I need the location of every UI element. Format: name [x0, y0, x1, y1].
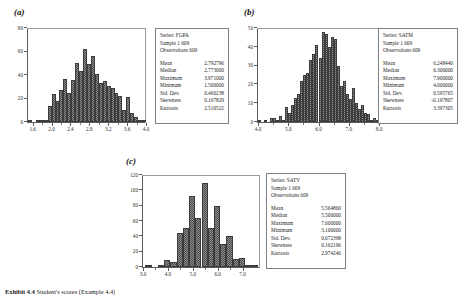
histogram-bar	[251, 265, 257, 267]
panel-c-y-tick	[139, 220, 142, 221]
stat-key: Skewness	[271, 242, 296, 250]
panel-b-y-tick	[254, 46, 257, 47]
panel-c-series-label: Series:	[271, 177, 285, 183]
stat-value: 3.397305	[433, 105, 453, 113]
stat-row: Std. Dev.0.672398	[271, 235, 341, 243]
stat-value: 1.500000	[204, 82, 224, 90]
panel-b-sample-line: Sample 1 609	[383, 40, 453, 48]
panel-c-bars	[143, 176, 259, 267]
panel-c-y-tick-label: 100	[130, 188, 138, 193]
panel-c-x-tick-label: 6.0	[214, 272, 220, 277]
panel-c-series-value: SATV	[287, 177, 300, 183]
panel-c-y-tick-label: 0	[135, 264, 138, 269]
panel-b-bars	[258, 29, 378, 122]
panel-c-y-tick	[139, 205, 142, 206]
panel-a-x-tick-minor	[80, 123, 81, 125]
panel-a-y-tick-label: 0	[20, 119, 23, 124]
panel-c-x-tick-minor	[155, 268, 156, 270]
stat-row: Median5.500000	[271, 212, 341, 220]
panel-c-sample-line: Sample 1 609	[271, 185, 341, 193]
panel-a-sample-value: 1 609	[177, 40, 189, 46]
stat-key: Mean	[383, 60, 399, 68]
histogram-bar	[145, 265, 151, 267]
stat-value: 3.971000	[204, 75, 224, 83]
panel-a-stats-box: Series: FGPA Sample 1 609 Observations 6…	[155, 28, 229, 124]
stat-key: Maximum	[160, 75, 186, 83]
stat-key: Median	[160, 67, 180, 75]
stat-value: 7.900000	[433, 75, 453, 83]
panel-b-y-tick-label: 30	[248, 63, 253, 68]
stat-row: Minimum1.500000	[160, 82, 224, 90]
panel-b-x-tick-label: 6.0	[315, 127, 321, 132]
panel-b-y-tick	[254, 27, 257, 28]
stat-key: Std. Dev.	[160, 90, 184, 98]
panel-b-y-tick	[254, 83, 257, 84]
histogram-bar	[142, 120, 146, 122]
stat-row: Mean5.564860	[271, 205, 341, 213]
stat-key: Skewness	[160, 97, 185, 105]
stat-key: Median	[271, 212, 291, 220]
stat-row: Skewness0.167829	[160, 97, 224, 105]
panel-c-sample-label: Sample	[271, 185, 287, 191]
panel-a-series-label: Series:	[160, 32, 174, 38]
panel-b-series-label: Series:	[383, 32, 397, 38]
stat-key: Kurtosis	[383, 105, 405, 113]
panel-a: (a) 0204060801.62.02.42.83.23.64.0 Serie…	[0, 0, 232, 150]
panel-b-y-tick	[254, 121, 257, 122]
panel-b-y-tick-label: 0	[250, 119, 253, 124]
stat-value: 5.500000	[321, 212, 341, 220]
stat-row: Mean6.248440	[383, 60, 453, 68]
panel-c-observations-label: Observations	[271, 192, 299, 198]
panel-a-y-tick	[24, 98, 27, 99]
panel-c-sample-value: 1 609	[288, 185, 300, 191]
panel-b-x-tick-minor	[303, 123, 304, 125]
panel-b-y-tick-label: 20	[248, 82, 253, 87]
panel-b-label: (b)	[244, 7, 255, 17]
panel-c-x-tick-minor	[180, 268, 181, 270]
stat-row: Kurtosis2.510522	[160, 105, 224, 113]
panel-a-label: (a)	[14, 7, 25, 17]
panel-b-y-tick	[254, 65, 257, 66]
panel-a-x-tick-label: 2.0	[48, 127, 54, 132]
panel-b-sample-value: 1 609	[400, 40, 412, 46]
panel-c-label: (c)	[126, 156, 136, 166]
stat-value: 2.792796	[204, 60, 224, 68]
panel-c-x-tick-minor	[230, 268, 231, 270]
stat-value: 0.595765	[433, 90, 453, 98]
panel-b-x-tick-minor	[273, 123, 274, 125]
stat-row: Minimum3.100000	[271, 227, 341, 235]
panel-c-x-tick-label: 7.0	[239, 272, 245, 277]
panel-a-y-tick-label: 20	[18, 96, 23, 101]
panel-b-plot-area: 010203040504.05.06.07.08.0	[257, 28, 379, 123]
panel-b-x-tick-label: 7.0	[346, 127, 352, 132]
panel-c-y-tick-label: 60	[133, 218, 138, 223]
stat-value: 2.974246	[321, 250, 341, 258]
histogram-bar	[28, 120, 32, 122]
panel-c-x-tick-label: 3.0	[140, 272, 146, 277]
panel-c-y-tick	[139, 266, 142, 267]
panel-b-stats-rows: Mean6.248440Median6.300000Maximum7.90000…	[383, 60, 453, 113]
panel-c-observations-value: 609	[300, 192, 308, 198]
figure-caption: Exhibit 4.4 Student's scores (Example 4.…	[5, 288, 115, 295]
stat-key: Minimum	[160, 82, 185, 90]
panel-a-y-tick-label: 60	[18, 49, 23, 54]
panel-a-x-tick-minor	[99, 123, 100, 125]
stat-key: Maximum	[271, 220, 297, 228]
stat-value: 0.162196	[321, 242, 341, 250]
panel-c-stats-box: Series: SATV Sample 1 609 Observations 6…	[266, 173, 346, 269]
stat-key: Mean	[160, 60, 176, 68]
panel-a-stats-rows: Mean2.792796Median2.773000Maximum3.97100…	[160, 60, 224, 113]
panel-a-x-tick-label: 3.2	[105, 127, 111, 132]
panel-a-y-tick	[24, 27, 27, 28]
stat-value: 2.510522	[204, 105, 224, 113]
stat-value: 6.248440	[433, 60, 453, 68]
panel-c-x-tick-minor	[205, 268, 206, 270]
panel-a-y-tick	[24, 121, 27, 122]
panel-c-observations-line: Observations 609	[271, 192, 341, 200]
panel-c-y-tick	[139, 174, 142, 175]
panel-b-x-axis	[257, 122, 378, 123]
stat-value: 2.773000	[204, 67, 224, 75]
panel-b-y-tick-label: 10	[248, 101, 253, 106]
histogram-bar	[258, 120, 261, 122]
panel-a-x-tick-minor	[137, 123, 138, 125]
